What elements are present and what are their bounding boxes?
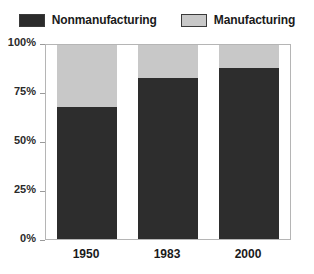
bar-segment-manufacturing-1950 [57,45,117,107]
bar-segment-nonmanufacturing-2000 [219,68,279,239]
bar-segment-manufacturing-1983 [138,45,198,78]
bar-segment-manufacturing-2000 [219,45,279,68]
plot-area [45,44,291,240]
stacked-bar-chart: Nonmanufacturing Manufacturing 100% 75% … [0,0,314,274]
stacked-bar [57,45,117,239]
x-tick-label-1983: 1983 [137,247,197,261]
y-tick-mark [40,240,45,241]
bar-group-1983 [138,45,198,239]
light-swatch-icon [181,14,207,27]
y-tick-label-50: 50% [14,134,36,146]
stacked-bar [138,45,198,239]
bar-segment-nonmanufacturing-1983 [138,78,198,239]
legend-item-nonmanufacturing: Nonmanufacturing [19,13,157,27]
legend-label-nonmanufacturing: Nonmanufacturing [52,13,157,27]
y-tick-label-0: 0% [20,232,36,244]
stacked-bar [219,45,279,239]
dark-swatch-icon [19,14,45,27]
y-tick-label-75: 75% [14,85,36,97]
legend-item-manufacturing: Manufacturing [181,13,295,27]
y-tick-label-100: 100% [8,36,36,48]
y-tick-label-25: 25% [14,183,36,195]
bar-group-1950 [57,45,117,239]
x-tick-label-2000: 2000 [218,247,278,261]
legend-label-manufacturing: Manufacturing [214,13,295,27]
chart-legend: Nonmanufacturing Manufacturing [0,8,314,32]
x-tick-label-1950: 1950 [56,247,116,261]
bar-group-2000 [219,45,279,239]
bar-segment-nonmanufacturing-1950 [57,107,117,239]
